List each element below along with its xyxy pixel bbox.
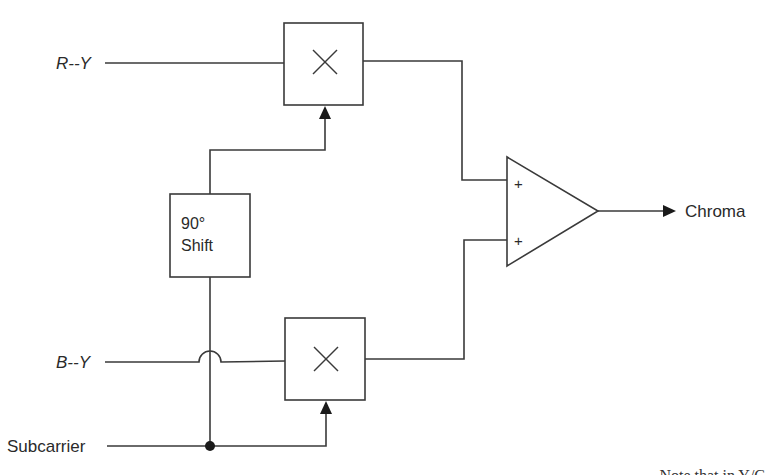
top-product-wire [363,61,507,180]
arrow-up-icon [320,401,332,414]
subcarrier-wire [107,413,326,446]
summing-amplifier: + + [507,157,598,266]
shifted-carrier-wire [210,118,325,194]
phase-shift-degrees: 90° [181,215,205,232]
bottom-product-wire [365,240,507,359]
figure-caption: Note that in Y/C [0,463,765,475]
b-minus-y-label: B--Y [56,353,92,372]
phase-shift-block: 90° Shift [170,194,250,277]
arrow-up-icon [319,106,331,119]
phase-shift-text: Shift [181,237,214,254]
plus-sign-top: + [514,175,523,192]
b-minus-y-wire [105,351,285,362]
bottom-multiplier-block [285,318,365,400]
arrow-right-icon [663,205,676,217]
chroma-label: Chroma [685,202,746,221]
junction-dot [205,441,215,451]
subcarrier-label: Subcarrier [7,437,86,456]
r-minus-y-label: R--Y [56,54,93,73]
chroma-modulator-diagram: R--Y 90° Shift B--Y Subcarrier + + C [0,0,765,475]
caption-fragment: Note that in Y/C [659,463,765,475]
top-multiplier-block [284,23,363,105]
plus-sign-bottom: + [514,232,523,249]
